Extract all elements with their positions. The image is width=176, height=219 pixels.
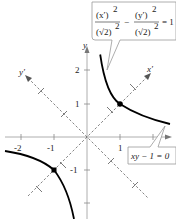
x-axis [5, 134, 172, 140]
eq-xy: xy − 1 = 0 [130, 151, 170, 161]
rotated-y-label: y′ [18, 67, 26, 77]
eq-den2-exp: 2 [154, 21, 159, 31]
eq-equals: = 1 [162, 17, 174, 27]
x-tick-neg1: -1 [47, 143, 55, 153]
y-tick-neg1: -1 [70, 165, 78, 175]
equation-callout-top: (x′) 2 (√2) 2 − (y′) 2 (√2) 2 = 1 [92, 2, 176, 70]
eq-den2: (√2) [135, 27, 150, 37]
equation-callout-bottom: xy − 1 = 0 [128, 126, 176, 164]
y-axis [84, 46, 90, 219]
x-tick-neg2: -2 [14, 143, 22, 153]
y-axis-label: y [82, 40, 87, 50]
y-tick-1: 1 [75, 99, 80, 109]
x-tick-1: 1 [118, 143, 123, 153]
eq-num1-exp: 2 [113, 4, 118, 14]
eq-num2: (y′) [135, 10, 147, 20]
vertex-point-upper [117, 101, 123, 107]
vertex-point-lower [52, 168, 57, 173]
rotated-x-label: x′ [146, 64, 154, 74]
eq-num2-exp: 2 [152, 4, 157, 14]
eq-minus: − [124, 17, 129, 27]
eq-den1-exp: 2 [115, 21, 120, 31]
rotated-x-axis [28, 73, 151, 196]
y-tick-2: 2 [75, 65, 80, 75]
hyperbola-graph: -2 -1 1 2 y 2 1 -1 x′ [0, 0, 176, 219]
eq-den1: (√2) [96, 27, 111, 37]
eq-num1: (x′) [96, 10, 108, 20]
rotated-y-axis [25, 75, 148, 198]
